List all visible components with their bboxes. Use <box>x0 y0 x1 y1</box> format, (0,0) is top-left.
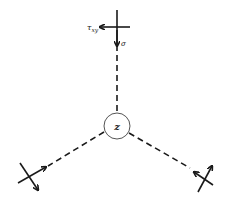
normal-stress-label: σ <box>121 40 126 48</box>
center-label: z <box>113 121 120 132</box>
bottom-left-stress-element <box>18 163 46 190</box>
center-node: z <box>104 113 130 139</box>
bottom-right-stress-element <box>194 166 213 192</box>
shear-stress-label: τxy <box>87 23 99 34</box>
dashed-connectors <box>48 45 190 168</box>
connector-bottom-left <box>48 132 104 166</box>
stress-diagram: z τxy σ <box>0 0 231 200</box>
connector-bottom-right <box>129 133 190 168</box>
